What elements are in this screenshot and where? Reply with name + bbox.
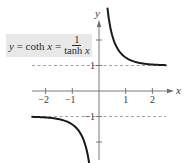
x-axis-arrow-icon — [167, 89, 174, 93]
equation-func: coth — [26, 40, 45, 52]
x-tick-label: −2 — [38, 94, 49, 105]
y-tick-label: −1 — [84, 111, 95, 122]
equation-eq1: = — [17, 40, 23, 52]
equation-eq2: = — [55, 40, 61, 52]
equation-label: y = coth x = 1 tanh x — [6, 34, 92, 57]
fraction-denominator: tanh x — [64, 46, 89, 56]
x-axis-label: x — [175, 84, 181, 96]
x-tick-label: −1 — [65, 94, 76, 105]
y-axis-label: y — [94, 7, 100, 19]
curve-positive-branch — [108, 9, 166, 66]
curve-negative-branch — [32, 117, 90, 163]
x-tick-label: 2 — [150, 94, 155, 105]
equation-lhs: y — [9, 40, 14, 52]
x-tick-label: 1 — [123, 94, 128, 105]
equation-fraction: 1 tanh x — [64, 35, 89, 56]
y-tick-label: 1 — [90, 60, 95, 71]
coth-chart: −2−1121−1 x y — [0, 0, 190, 163]
y-axis-arrow-icon — [97, 20, 101, 27]
equation-var: x — [47, 40, 52, 52]
